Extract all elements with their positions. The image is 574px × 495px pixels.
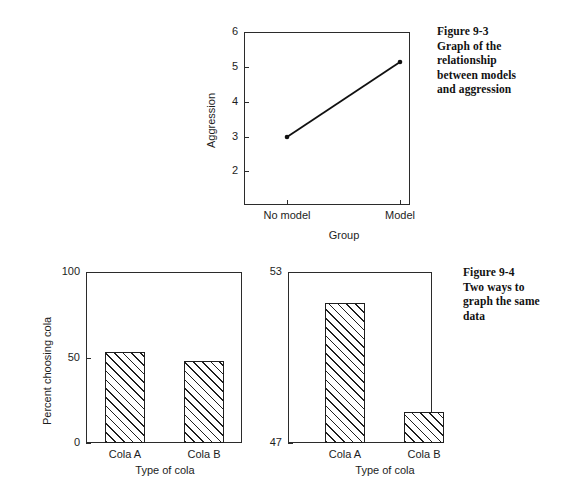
x-tick-label-cola-a-expanded: Cola A [305,448,385,460]
caption-line-3: graph the same [463,294,573,309]
bar-cola-a-expanded [325,303,365,443]
figure-9-4-caption: Figure 9-4 Two ways to graph the same da… [463,265,573,323]
caption-line-1: Figure 9-4 [463,265,573,280]
bar-cola-b-expanded [404,412,444,443]
y-tick-label-53: 53 [252,265,282,277]
bar-chart-percent-expanded-scale: 53 47 Cola A Cola B Type of cola [0,0,574,495]
y-tick-47 [288,443,293,444]
y-tick-label-47: 47 [252,436,282,448]
x-axis-title-type-of-cola-expanded: Type of cola [325,464,445,476]
y-tick-53 [288,272,293,273]
caption-line-4: data [463,309,573,324]
figure-page: 6 5 4 3 2 Aggression No model Model Grou… [0,0,574,495]
caption-line-2: Two ways to [463,280,573,295]
x-tick-label-cola-b-expanded: Cola B [384,448,464,460]
